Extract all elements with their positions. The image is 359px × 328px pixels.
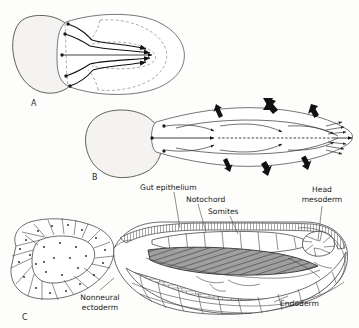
panel-b-embryo-outline bbox=[152, 108, 353, 167]
label-endoderm: Endoderm bbox=[280, 299, 319, 308]
leader-nonneural-ectoderm bbox=[100, 278, 114, 290]
panel-b-yolk-mass bbox=[86, 110, 163, 178]
panel-c-letter: C bbox=[22, 313, 28, 322]
label-gut-epithelium: Gut epithelium bbox=[140, 183, 197, 192]
panel-b-origin-dot-2 bbox=[150, 136, 153, 139]
embryology-figure: A bbox=[0, 0, 359, 328]
label-somites: Somites bbox=[208, 207, 239, 216]
panel-b-origin-dot-1 bbox=[162, 124, 165, 127]
panel-a-origin-dot-1 bbox=[66, 22, 69, 25]
panel-b-origin-dot-3 bbox=[162, 149, 165, 152]
panel-b-letter: B bbox=[92, 173, 98, 182]
panel-a-origin-dot-5 bbox=[68, 84, 71, 87]
panel-a-letter: A bbox=[31, 99, 37, 108]
panel-a-origin-dot-4 bbox=[64, 74, 67, 77]
label-notochord: Notochord bbox=[186, 195, 226, 204]
figure-canvas: A bbox=[0, 0, 359, 328]
label-nonneural-ectoderm-line2: ectoderm bbox=[82, 303, 118, 312]
panel-a-origin-dot-2 bbox=[63, 32, 66, 35]
label-head-mesoderm-line1: Head bbox=[312, 185, 332, 194]
panel-a: A bbox=[13, 14, 185, 108]
panel-a-embryo-outline bbox=[57, 14, 184, 94]
panel-a-origin-dot-3 bbox=[60, 53, 63, 56]
panel-b: B bbox=[86, 98, 353, 182]
label-head-mesoderm-line2: mesoderm bbox=[302, 195, 343, 204]
label-nonneural-ectoderm-line1: Nonneural bbox=[80, 293, 119, 302]
